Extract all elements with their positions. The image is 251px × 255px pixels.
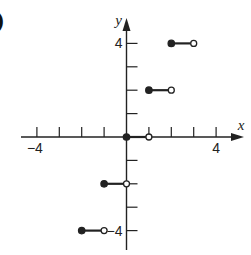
- open-endpoint: [191, 40, 197, 46]
- x-axis-label: x: [237, 117, 245, 133]
- closed-endpoint: [168, 40, 174, 46]
- x-tick-label: −4: [27, 140, 43, 156]
- y-tick-label: 4: [115, 35, 123, 51]
- closed-endpoint: [79, 227, 85, 233]
- x-tick-label: 4: [212, 140, 220, 156]
- closed-endpoint: [101, 181, 107, 187]
- y-axis-label: y: [113, 12, 122, 28]
- open-endpoint: [146, 134, 152, 140]
- closed-endpoint: [146, 87, 152, 93]
- open-endpoint: [124, 181, 130, 187]
- y-tick-label: −4: [107, 223, 123, 239]
- y-axis-arrow-icon: [123, 18, 131, 31]
- figure: ) −444−4xy: [0, 0, 251, 255]
- open-endpoint: [168, 87, 174, 93]
- closed-endpoint: [123, 134, 129, 140]
- figure-label: ): [0, 8, 5, 34]
- x-axis-arrow-icon: [231, 133, 244, 141]
- open-endpoint: [101, 228, 107, 234]
- step-function-plot: −444−4xy: [0, 0, 251, 255]
